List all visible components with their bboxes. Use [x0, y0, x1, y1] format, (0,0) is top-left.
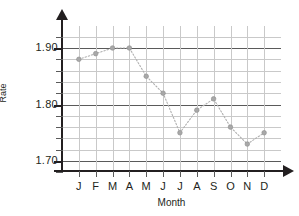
data-point-marker: [93, 51, 98, 56]
data-point-marker: [161, 91, 166, 96]
data-point-marker: [77, 57, 82, 62]
y-axis-tick: [56, 127, 63, 128]
x-axis-tick: [264, 171, 265, 177]
x-axis-tick-label: O: [222, 180, 240, 192]
x-axis-tick: [113, 171, 114, 177]
y-axis-tick: [56, 93, 63, 94]
x-axis-tick: [96, 171, 97, 177]
x-axis-tick-label: N: [238, 180, 256, 192]
x-axis-tick: [197, 171, 198, 177]
y-axis-tick-label: 1.80: [35, 98, 58, 110]
x-axis-arrow-icon: [283, 165, 294, 177]
x-axis-tick: [79, 171, 80, 177]
x-axis-tick: [214, 171, 215, 177]
x-axis-tick-label: J: [171, 180, 189, 192]
x-axis-tick-label: A: [188, 180, 206, 192]
x-axis-tick-label: M: [137, 180, 155, 192]
y-axis-tick: [56, 172, 63, 173]
y-axis-tick: [56, 82, 63, 83]
y-axis-tick: [56, 37, 63, 38]
x-axis-tick: [163, 171, 164, 177]
x-axis-tick: [231, 171, 232, 177]
data-point-marker: [262, 130, 267, 135]
y-axis-arrow-icon: [56, 9, 68, 20]
data-point-marker: [245, 142, 250, 147]
y-axis-tick: [56, 59, 63, 60]
x-axis-tick: [129, 171, 130, 177]
data-point-marker: [110, 46, 115, 51]
y-axis-tick: [56, 116, 63, 117]
x-axis-tick-label: F: [87, 180, 105, 192]
data-point-marker: [194, 108, 199, 113]
x-axis-tick: [146, 171, 147, 177]
y-axis-tick: [56, 138, 63, 139]
data-point-marker: [144, 74, 149, 79]
y-axis-tick: [56, 150, 63, 151]
data-point-marker: [178, 130, 183, 135]
x-axis-title: Month: [0, 197, 299, 208]
x-axis-tick-label: D: [255, 180, 273, 192]
y-axis-tick-label: 1.70: [35, 154, 58, 166]
x-axis-tick-label: J: [70, 180, 88, 192]
data-point-marker: [228, 125, 233, 130]
data-series: [62, 26, 281, 171]
x-axis-tick: [247, 171, 248, 177]
x-axis-tick-label: S: [205, 180, 223, 192]
data-point-marker: [127, 46, 132, 51]
x-axis-tick: [180, 171, 181, 177]
x-axis-tick-label: A: [120, 180, 138, 192]
plot-area: [62, 26, 281, 171]
x-axis-tick-label: J: [154, 180, 172, 192]
x-axis-tick-label: M: [104, 180, 122, 192]
y-axis-tick: [56, 71, 63, 72]
series-markers: [77, 46, 267, 147]
data-point-marker: [211, 97, 216, 102]
x-axis-line: [54, 170, 284, 172]
line-chart: 1.901.801.70 JFMAMJJASOND Rate Month: [0, 0, 299, 216]
series-connector-line: [79, 48, 264, 144]
y-axis-title: Rate: [0, 83, 8, 102]
y-axis-tick-label: 1.90: [35, 41, 58, 53]
